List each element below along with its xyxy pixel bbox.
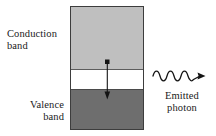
conduction-band-label: Conduction band: [7, 28, 57, 52]
emitted-photon-label-line1: Emitted: [152, 90, 212, 102]
emitted-photon-label-line2: photon: [152, 102, 212, 114]
electron-transition-arrow: [70, 6, 144, 130]
emitted-photon-wave-icon: [152, 66, 210, 86]
valence-band-label-line2: band: [0, 111, 64, 123]
conduction-band-label-line2: band: [7, 40, 57, 52]
valence-band-label: Valence band: [0, 99, 64, 123]
band-diagram-figure: Conduction band Valence band Emitted pho…: [0, 0, 216, 136]
valence-band-label-line1: Valence: [0, 99, 64, 111]
conduction-band-label-line1: Conduction: [7, 28, 57, 40]
emitted-photon-label: Emitted photon: [152, 90, 212, 114]
